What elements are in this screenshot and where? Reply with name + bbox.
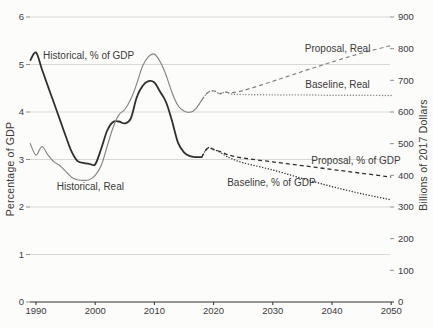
x-axis-tick-label: 2000	[85, 305, 106, 316]
series-line-historical-real	[30, 54, 202, 181]
historical-pct-label: Historical, % of GDP	[43, 50, 134, 61]
right-axis-tick-label: 700	[398, 75, 414, 86]
x-axis-tick-label: 2020	[203, 305, 224, 316]
right-axis-tick-label: 900	[398, 11, 414, 22]
right-axis-tick-label: 300	[398, 201, 414, 212]
baseline-real-label: Baseline, Real	[305, 79, 369, 90]
budget-dual-axis-line-chart: 0123456010020030040050060070080090019902…	[0, 0, 433, 328]
right-axis-tick-label: 100	[398, 265, 414, 276]
right-axis-tick-label: 500	[398, 138, 414, 149]
baseline-pct-label: Baseline, % of GDP	[227, 177, 316, 188]
historical-real-label: Historical, Real	[57, 181, 124, 192]
proposal-real-label: Proposal, Real	[305, 43, 371, 54]
left-axis-tick-label: 4	[19, 106, 24, 117]
left-axis-tick-label: 3	[19, 154, 24, 165]
x-axis-tick-label: 2010	[144, 305, 165, 316]
left-axis-tick-label: 6	[19, 11, 24, 22]
right-axis-tick-label: 600	[398, 106, 414, 117]
left-axis-tick-label: 5	[19, 59, 24, 70]
right-axis-tick-label: 800	[398, 43, 414, 54]
chart-figure: 0123456010020030040050060070080090019902…	[0, 0, 433, 328]
right-axis-tick-label: 200	[398, 233, 414, 244]
right-axis-title: Billions of 2017 Dollars	[417, 99, 429, 211]
x-axis-tick-label: 2050	[381, 305, 402, 316]
left-axis-title: Percentage of GDP	[4, 122, 16, 216]
left-axis-tick-label: 2	[19, 201, 24, 212]
series-line-baseline-real	[202, 91, 391, 100]
left-axis-tick-label: 0	[19, 296, 24, 307]
x-axis-tick-label: 2040	[321, 305, 342, 316]
left-axis-tick-label: 1	[19, 249, 24, 260]
proposal-pct-label: Proposal, % of GDP	[311, 155, 401, 166]
x-axis-tick-label: 1990	[25, 305, 46, 316]
right-axis-tick-label: 400	[398, 170, 414, 181]
x-axis-tick-label: 2030	[262, 305, 283, 316]
series-line-historical-pct-of-gdp	[30, 52, 202, 165]
